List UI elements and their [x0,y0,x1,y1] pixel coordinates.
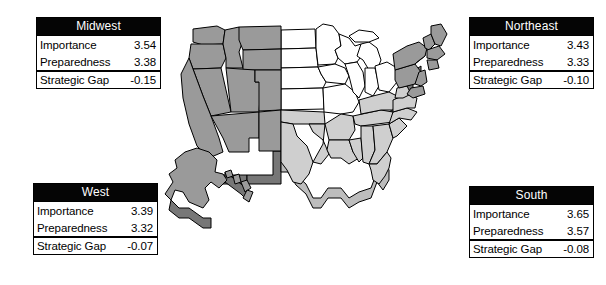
metric-value: -0.10 [563,74,589,86]
region-table-northeast: Northeast Importance 3.43 Preparedness 3… [469,17,594,89]
us-map-svg: .st{stroke:#000;stroke-width:1;stroke-li… [163,12,453,257]
metric-label: Strategic Gap [473,74,542,86]
us-region-map: .st{stroke:#000;stroke-width:1;stroke-li… [163,12,453,257]
region-table-midwest: Midwest Importance 3.54 Preparedness 3.3… [36,17,161,89]
metric-label: Preparedness [40,56,110,68]
metric-label: Importance [473,39,530,51]
metric-label: Preparedness [473,56,543,68]
metric-label: Strategic Gap [473,243,542,255]
metric-value: 3.38 [134,56,156,68]
metric-label: Importance [473,208,530,220]
table-row: Preparedness 3.38 [37,53,160,70]
table-row: Importance 3.39 [34,202,157,219]
metric-label: Strategic Gap [40,74,109,86]
table-row-strategic-gap: Strategic Gap -0.10 [470,70,593,88]
table-header-south: South [470,187,593,204]
table-header-northeast: Northeast [470,18,593,35]
table-header-west: West [34,184,157,201]
region-table-south: South Importance 3.65 Preparedness 3.57 … [469,186,594,258]
metric-label: Preparedness [473,225,543,237]
metric-label: Importance [40,39,97,51]
figure-canvas: Midwest Importance 3.54 Preparedness 3.3… [0,0,606,285]
map-region-northeast [393,24,447,98]
table-row: Importance 3.65 [470,205,593,222]
table-row: Preparedness 3.32 [34,219,157,236]
table-row-strategic-gap: Strategic Gap -0.15 [37,70,160,88]
metric-value: 3.54 [134,39,156,51]
metric-value: -0.15 [130,74,156,86]
metric-value: 3.65 [567,208,589,220]
table-row-strategic-gap: Strategic Gap -0.07 [34,236,157,254]
table-row-strategic-gap: Strategic Gap -0.08 [470,239,593,257]
table-body-northeast: Importance 3.43 Preparedness 3.33 Strate… [470,35,593,88]
table-body-midwest: Importance 3.54 Preparedness 3.38 Strate… [37,35,160,88]
metric-value: -0.07 [127,240,153,252]
metric-label: Strategic Gap [37,240,106,252]
metric-label: Preparedness [37,222,107,234]
table-body-west: Importance 3.39 Preparedness 3.32 Strate… [34,201,157,254]
metric-value: -0.08 [563,243,589,255]
table-row: Preparedness 3.57 [470,222,593,239]
metric-label: Importance [37,205,94,217]
table-body-south: Importance 3.65 Preparedness 3.57 Strate… [470,204,593,257]
region-table-west: West Importance 3.39 Preparedness 3.32 S… [33,183,158,255]
table-row: Importance 3.43 [470,36,593,53]
table-row: Preparedness 3.33 [470,53,593,70]
table-header-midwest: Midwest [37,18,160,35]
table-row: Importance 3.54 [37,36,160,53]
metric-value: 3.57 [567,225,589,237]
metric-value: 3.39 [131,205,153,217]
metric-value: 3.43 [567,39,589,51]
metric-value: 3.32 [131,222,153,234]
metric-value: 3.33 [567,56,589,68]
